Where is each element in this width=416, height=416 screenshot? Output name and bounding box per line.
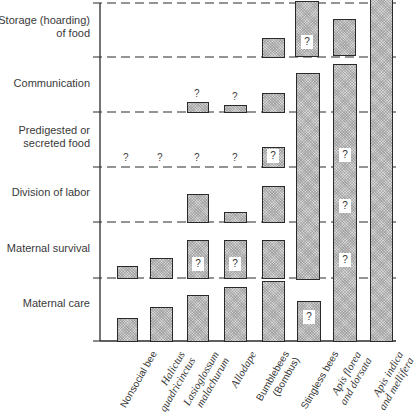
bar-apis-indica-full xyxy=(370,0,393,342)
bar-allodape-communication xyxy=(224,105,247,113)
bar-stingless-survival-to-communication xyxy=(296,73,320,280)
uncertain-mark: ? xyxy=(232,91,238,102)
bar-halictus-maternal-care xyxy=(150,307,173,342)
row-label-predigested-food: Predigested or secreted food xyxy=(18,124,90,150)
bar-allodape-division-of-labor xyxy=(224,212,247,223)
uncertain-mark: ? xyxy=(339,253,351,267)
bar-bombus-maternal-care xyxy=(262,281,285,342)
bar-bombus-division-of-labor xyxy=(262,186,285,223)
uncertain-mark: ? xyxy=(194,88,200,99)
uncertain-mark: ? xyxy=(339,148,351,162)
row-label-maternal-survival: Maternal survival xyxy=(7,242,90,255)
uncertain-mark: ? xyxy=(267,149,279,163)
row-label-storage: Storage (hoarding) of food xyxy=(0,14,90,40)
bar-nonsocial-maternal-survival xyxy=(117,266,138,279)
uncertain-mark: ? xyxy=(157,152,163,163)
bar-allodape-maternal-care xyxy=(224,287,247,342)
uncertain-mark: ? xyxy=(192,257,204,271)
bar-nonsocial-maternal-care xyxy=(117,318,138,342)
bar-lasioglossum-division-of-labor xyxy=(187,194,209,223)
bar-bombus-maternal-survival xyxy=(262,240,285,279)
row-label-maternal-care: Maternal care xyxy=(23,297,90,310)
uncertain-mark: ? xyxy=(339,199,351,213)
bar-lasioglossum-maternal-care xyxy=(187,295,209,342)
uncertain-mark: ? xyxy=(229,257,241,271)
row-label-communication: Communication xyxy=(14,77,90,90)
bar-halictus-maternal-survival xyxy=(150,258,173,279)
bar-apis-florea-storage xyxy=(333,19,356,56)
bar-bombus-storage xyxy=(262,38,285,58)
bar-lasioglossum-communication xyxy=(187,102,209,113)
uncertain-mark: ? xyxy=(194,152,200,163)
uncertain-mark: ? xyxy=(301,35,313,49)
uncertain-mark: ? xyxy=(232,152,238,163)
uncertain-mark: ? xyxy=(303,310,315,324)
uncertain-mark: ? xyxy=(123,152,129,163)
row-label-division-of-labor: Division of labor xyxy=(12,186,90,199)
bar-bombus-communication xyxy=(262,93,285,113)
